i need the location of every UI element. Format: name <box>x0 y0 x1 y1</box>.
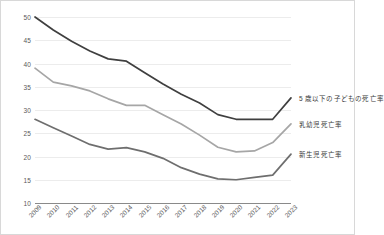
x-axis-tick-label: 2021 <box>247 203 262 218</box>
y-axis-tick-label: 30 <box>24 107 31 114</box>
y-axis-tick-label: 25 <box>24 130 31 137</box>
series-label: 乳幼児死亡率 <box>299 119 342 129</box>
x-axis-tick-label: 2020 <box>228 203 243 218</box>
series-line <box>35 68 291 152</box>
y-axis-tick-label: 50 <box>24 14 31 21</box>
plot-area: 504540353025201510 200920102011201220132… <box>35 17 291 203</box>
y-axis-tick-label: 10 <box>24 200 31 207</box>
series-line <box>35 119 291 179</box>
x-axis-tick-label: 2011 <box>64 204 79 219</box>
series-lines <box>35 17 291 203</box>
series-label: 新生児死亡率 <box>299 149 342 159</box>
y-axis-tick-label: 20 <box>24 153 31 160</box>
y-axis-tick-label: 15 <box>24 176 31 183</box>
x-axis-tick-label: 2010 <box>46 203 61 218</box>
x-axis-tick-label: 2016 <box>155 203 170 218</box>
x-axis-tick-label: 2013 <box>100 203 115 218</box>
x-axis-tick-label: 2018 <box>192 203 207 218</box>
y-axis-tick-label: 45 <box>24 37 31 44</box>
x-axis-tick-label: 2017 <box>174 203 189 218</box>
x-axis-tick-label: 2022 <box>265 203 280 218</box>
y-axis-tick-label: 40 <box>24 60 31 67</box>
y-axis-tick-label: 35 <box>24 83 31 90</box>
x-axis-tick-label: 2015 <box>137 203 152 218</box>
x-axis-tick-label: 2019 <box>210 203 225 218</box>
series-line <box>35 17 291 119</box>
series-label: 5 歳以下の子どもの死亡率 <box>299 93 384 103</box>
x-axis-tick-label: 2012 <box>82 203 97 218</box>
x-axis-tick-label: 2023 <box>283 203 298 218</box>
x-axis-tick-label: 2014 <box>119 203 134 218</box>
